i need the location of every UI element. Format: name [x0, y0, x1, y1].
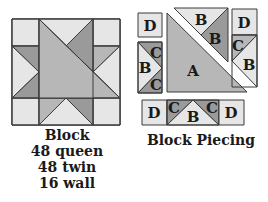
label-b-left: B — [139, 59, 152, 77]
piecing-illustration: D C B C A B B D C B D C B C D — [0, 0, 268, 130]
label-b-top-light: B — [195, 11, 208, 29]
label-b-bottom: B — [187, 108, 200, 126]
label-d-top-right: D — [237, 14, 250, 32]
block-piecing-diagram: D C B C A B B D C B D C B C D — [0, 0, 268, 202]
piecing-caption: Block Piecing — [134, 132, 268, 148]
label-b-top-dark: B — [209, 30, 222, 48]
label-d-bottom-left: D — [147, 104, 160, 122]
label-a-center: A — [186, 62, 199, 80]
label-d-bottom-right: D — [224, 104, 237, 122]
label-c-right: C — [232, 37, 244, 55]
label-b-right: B — [243, 56, 256, 74]
label-c-bottom-left: C — [168, 99, 180, 117]
label-d-top-left: D — [143, 17, 156, 35]
label-c-left-top: C — [150, 44, 162, 62]
label-c-left-bottom: C — [150, 76, 162, 94]
label-c-bottom-right: C — [206, 99, 218, 117]
